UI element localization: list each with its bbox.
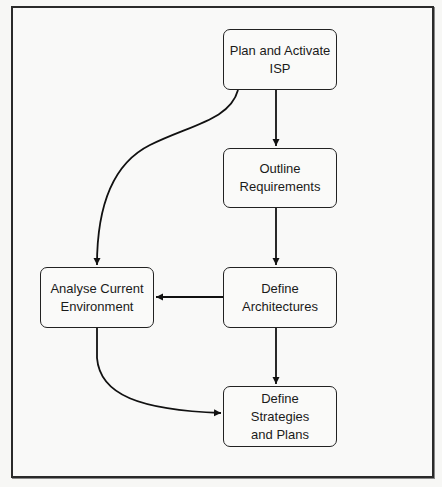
node-define-architectures: Define Architectures	[223, 267, 337, 328]
diagram-edges	[0, 0, 442, 487]
node-outline-requirements: Outline Requirements	[223, 148, 337, 208]
node-label: Define Architectures	[242, 280, 318, 316]
node-label: Plan and Activate ISP	[230, 42, 330, 78]
node-define-strategies-and-plans: Define Strategies and Plans	[223, 386, 337, 447]
node-analyse-current-environment: Analyse Current Environment	[40, 267, 154, 328]
edge-plan-to-analyse	[97, 90, 238, 265]
node-label: Define Strategies and Plans	[251, 390, 310, 444]
node-label: Analyse Current Environment	[50, 280, 143, 316]
node-plan-and-activate-isp: Plan and Activate ISP	[223, 29, 337, 90]
node-label: Outline Requirements	[240, 160, 321, 196]
edge-analyse-to-strategies	[97, 328, 221, 413]
